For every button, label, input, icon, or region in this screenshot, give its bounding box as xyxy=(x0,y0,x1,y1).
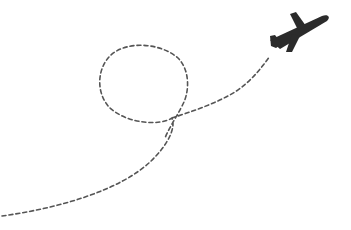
flight-path-graphic xyxy=(0,0,351,230)
flight-path-illustration: airplane flying along dashed looping fli… xyxy=(0,0,351,230)
airplane-icon xyxy=(270,12,329,52)
dashed-flight-path xyxy=(2,45,270,216)
